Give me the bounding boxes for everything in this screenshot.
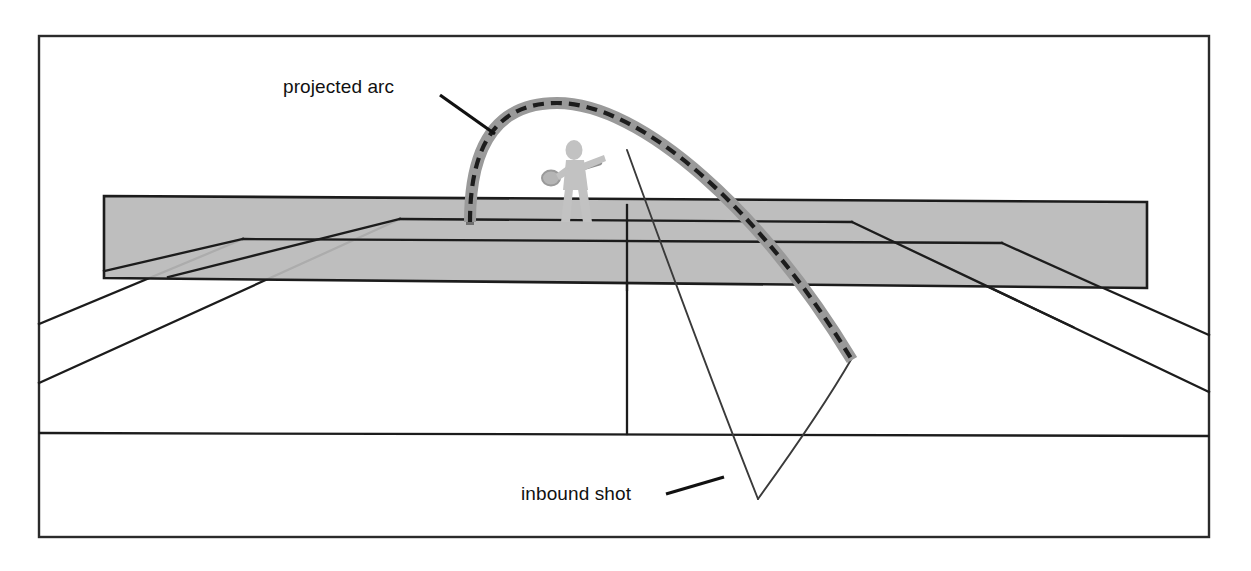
tennis-racket-head: [542, 171, 560, 186]
diagram-root: projected arc inbound shot: [0, 0, 1251, 571]
tennis-court-diagram: projected arc inbound shot: [0, 0, 1251, 571]
inbound-shot-label: inbound shot: [521, 483, 632, 504]
projected-arc-label: projected arc: [283, 76, 394, 97]
player-head: [566, 140, 583, 160]
